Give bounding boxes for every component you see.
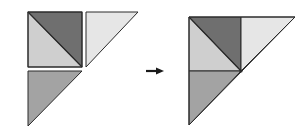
arrow-icon <box>146 68 164 75</box>
before-bottom-triangle <box>28 71 82 126</box>
after-group <box>189 17 295 125</box>
after-center-vertex <box>239 69 242 72</box>
diagram-canvas <box>0 0 304 135</box>
diagram-svg <box>0 0 304 135</box>
before-group <box>28 12 138 126</box>
before-right-triangle <box>86 12 138 67</box>
arrow-head <box>156 68 164 75</box>
